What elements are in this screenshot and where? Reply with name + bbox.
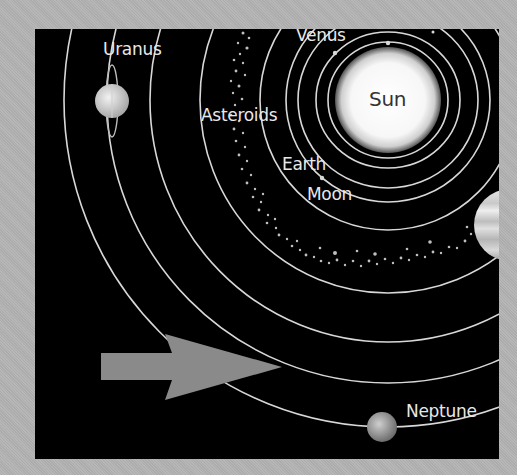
label-asteroids: Asteroids	[201, 107, 277, 124]
mercury-dot	[386, 41, 390, 45]
label-uranus: Uranus	[103, 41, 161, 58]
jupiter	[474, 189, 499, 261]
label-sun: Sun	[369, 89, 406, 109]
orbit-diagram	[35, 29, 499, 459]
uranus	[95, 65, 129, 137]
venus-dot	[333, 51, 337, 55]
solar-system-panel: Uranus Venus Asteroids Earth Moon Neptun…	[35, 29, 499, 459]
neptune	[367, 412, 397, 442]
mercury-label-fragment	[432, 31, 435, 34]
label-earth: Earth	[282, 156, 326, 173]
label-venus: Venus	[296, 29, 346, 44]
label-neptune: Neptune	[406, 403, 477, 420]
direction-arrow	[101, 334, 282, 400]
label-moon: Moon	[307, 186, 352, 203]
orbit-neptune-inner	[107, 29, 499, 383]
earth-dot	[320, 176, 324, 180]
